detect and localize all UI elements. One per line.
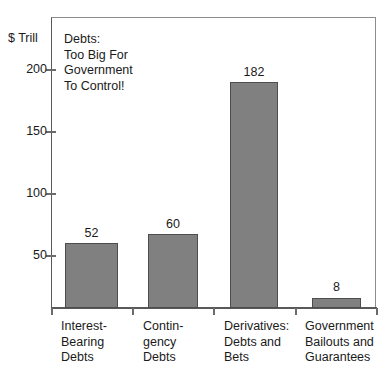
bar-derivatives-debts-and-bets <box>230 82 278 308</box>
y-tick-label-200: 200 <box>26 63 47 76</box>
bar-government-bailouts-and-guarantees <box>312 298 361 308</box>
x-tick-mark-2 <box>213 308 215 315</box>
x-tick-mark-3 <box>295 308 297 315</box>
x-axis-label-interest-bearing-debts: Interest- Bearing Debts <box>61 319 133 366</box>
bar-value-label-interest-bearing-debts: 52 <box>65 227 118 240</box>
bar-value-label-derivatives-debts-and-bets: 182 <box>230 66 278 79</box>
x-tick-mark-1 <box>132 308 134 315</box>
y-axis-unit-label: $ Trill <box>8 32 38 45</box>
x-tick-mark-0 <box>51 308 53 315</box>
bar-value-label-contingency-debts: 60 <box>148 218 198 231</box>
x-axis-label-government-bailouts-and-guarantees: Government Bailouts and Guarantees <box>305 319 392 366</box>
x-axis-label-contingency-debts: Contin- gency Debts <box>143 319 215 366</box>
bar-contingency-debts <box>148 234 198 308</box>
chart-title: Debts: Too Big For Government To Control… <box>64 32 133 94</box>
x-tick-mark-4 <box>376 308 378 315</box>
bar-value-label-government-bailouts-and-guarantees: 8 <box>312 281 361 294</box>
y-tick-mark-50 <box>46 255 56 257</box>
y-tick-mark-200 <box>46 69 56 71</box>
y-tick-label-50: 50 <box>33 249 47 262</box>
bar-chart: $ Trill 200 150 100 50 Debts: Too Big Fo… <box>0 0 392 379</box>
y-tick-label-100: 100 <box>26 187 47 200</box>
x-axis-label-derivatives-debts-and-bets: Derivatives: Debts and Bets <box>224 319 299 366</box>
y-tick-mark-150 <box>46 131 56 133</box>
bar-interest-bearing-debts <box>65 243 118 308</box>
y-tick-label-150: 150 <box>26 125 47 138</box>
y-tick-mark-100 <box>46 193 56 195</box>
